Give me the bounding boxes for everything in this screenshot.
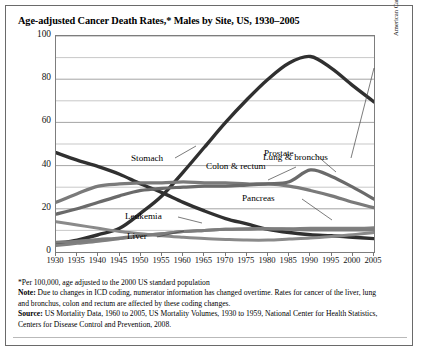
y-tick-label: 60 bbox=[25, 115, 51, 125]
x-tick-mark bbox=[161, 252, 162, 256]
series-label-leukemia: Leukemia bbox=[125, 211, 162, 221]
y-tick-label: 0 bbox=[25, 245, 51, 255]
footnotes: *Per 100,000, age adjusted to the 2000 U… bbox=[18, 278, 380, 330]
series-label-liver: Liver bbox=[127, 231, 147, 241]
x-tick-mark bbox=[309, 252, 310, 256]
x-tick-mark bbox=[76, 252, 77, 256]
series-label-colon-rectum: Colon & rectum bbox=[206, 161, 266, 171]
x-tick-mark bbox=[246, 252, 247, 256]
source-credit: American Cancer Society, Surveillance an… bbox=[392, 0, 399, 36]
footnote-note: Note: Due to changes in ICD coding, nume… bbox=[18, 288, 380, 309]
x-tick-mark bbox=[55, 252, 56, 256]
x-tick-mark bbox=[331, 252, 332, 256]
note-label: Note: bbox=[18, 288, 36, 297]
series-label-stomach: Stomach bbox=[131, 153, 163, 163]
series-label-prostate: Prostate bbox=[264, 148, 294, 158]
x-tick-mark bbox=[352, 252, 353, 256]
x-tick-mark bbox=[225, 252, 226, 256]
footnote-asterisk: *Per 100,000, age adjusted to the 2000 U… bbox=[18, 278, 380, 288]
x-tick-mark bbox=[203, 252, 204, 256]
footnote-source: Source: US Mortality Data, 1960 to 2005,… bbox=[18, 309, 380, 330]
chart-card: Age-adjusted Cancer Death Rates,* Males … bbox=[5, 5, 413, 346]
plot-area bbox=[55, 35, 375, 253]
y-tick-label: 80 bbox=[25, 72, 51, 82]
x-tick-mark bbox=[140, 252, 141, 256]
note-text: Due to changes in ICD coding, numerator … bbox=[18, 288, 376, 307]
series-line bbox=[56, 170, 374, 214]
y-tick-label: 20 bbox=[25, 202, 51, 212]
x-tick-mark bbox=[373, 252, 374, 256]
y-tick-label: 40 bbox=[25, 159, 51, 169]
source-label: Source: bbox=[18, 309, 43, 318]
x-tick-mark bbox=[267, 252, 268, 256]
series-label-pancreas: Pancreas bbox=[242, 193, 275, 203]
x-tick-mark bbox=[119, 252, 120, 256]
series-lines bbox=[56, 36, 374, 252]
x-tick-mark bbox=[97, 252, 98, 256]
divider bbox=[13, 337, 407, 338]
x-tick-label: 2005 bbox=[360, 255, 386, 265]
y-tick-label: 100 bbox=[25, 29, 51, 39]
source-text: US Mortality Data, 1960 to 2005, US Mort… bbox=[18, 309, 377, 328]
x-tick-mark bbox=[182, 252, 183, 256]
x-tick-mark bbox=[288, 252, 289, 256]
